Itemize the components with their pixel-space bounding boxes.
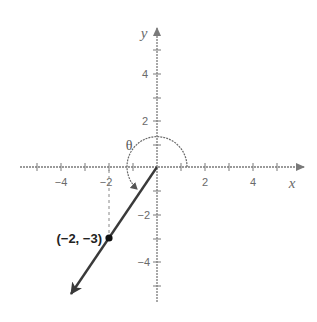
- y-axis-label: y: [139, 25, 148, 41]
- y-tick-label-2: 2: [142, 115, 148, 127]
- angle-theta: θ: [126, 137, 187, 189]
- x-tick-label-4: 4: [250, 176, 256, 188]
- point-marker: [105, 234, 112, 241]
- x-axis: −4 −2 2 4 x: [20, 163, 304, 191]
- y-tick-label-4: 4: [142, 68, 148, 80]
- coordinate-plane: −4 −2 2 4 x 4 2 −2 −4 y θ: [0, 0, 317, 322]
- point-label: (−2, −3): [56, 231, 102, 246]
- x-tick-label-neg4: −4: [55, 176, 68, 188]
- x-tick-label-neg2: −2: [100, 176, 113, 188]
- x-axis-label: x: [288, 175, 296, 191]
- y-tick-label-neg2: −2: [137, 209, 150, 221]
- y-tick-label-neg4: −4: [137, 256, 150, 268]
- y-axis: 4 2 −2 −4 y: [137, 25, 161, 302]
- theta-label: θ: [126, 138, 133, 153]
- x-tick-label-2: 2: [202, 176, 208, 188]
